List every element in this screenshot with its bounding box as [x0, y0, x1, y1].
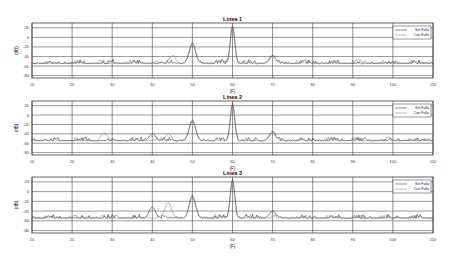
subplot-linea-2: Linea 2 (dB) (F) 200-20-40-60-8010203040…: [14, 94, 437, 171]
svg-text:10: 10: [30, 82, 35, 87]
svg-text:90: 90: [351, 237, 356, 242]
svg-text:100: 100: [390, 237, 397, 242]
x-axis-label: (F): [230, 244, 236, 249]
svg-text:20: 20: [70, 159, 75, 164]
legend: Sin Falla Con Falla: [393, 26, 431, 39]
svg-text:-80: -80: [23, 73, 30, 78]
grid-lines: [32, 23, 433, 78]
y-axis-label: (dB): [14, 46, 19, 55]
svg-text:80: 80: [310, 237, 315, 242]
svg-text:0: 0: [27, 189, 30, 194]
svg-text:-80: -80: [23, 150, 30, 155]
legend-label-sin-falla: Sin Falla: [415, 106, 429, 110]
svg-text:-80: -80: [23, 228, 30, 233]
svg-text:80: 80: [310, 82, 315, 87]
svg-text:20: 20: [25, 179, 30, 184]
svg-text:60: 60: [230, 82, 235, 87]
svg-text:50: 50: [190, 237, 195, 242]
svg-text:60: 60: [230, 159, 235, 164]
svg-text:40: 40: [150, 82, 155, 87]
y-axis-label: (dB): [14, 200, 19, 209]
legend-label-con-falla: Con Falla: [414, 187, 429, 191]
subplot-title: Linea 2: [223, 94, 242, 100]
axis-ticks: 200-20-40-60-80102030405060708090100110: [23, 179, 437, 242]
svg-text:0: 0: [27, 113, 30, 118]
svg-text:100: 100: [390, 82, 397, 87]
svg-text:70: 70: [270, 159, 275, 164]
grid-lines: [32, 101, 433, 155]
svg-text:-60: -60: [23, 218, 30, 223]
svg-text:30: 30: [110, 159, 115, 164]
legend: Sin Falla Con Falla: [393, 104, 431, 117]
svg-text:110: 110: [430, 237, 437, 242]
svg-text:60: 60: [230, 237, 235, 242]
y-axis-label: (dB): [14, 123, 19, 132]
svg-text:90: 90: [351, 82, 356, 87]
svg-text:10: 10: [30, 237, 35, 242]
svg-text:80: 80: [310, 159, 315, 164]
svg-text:110: 110: [430, 82, 437, 87]
legend-label-con-falla: Con Falla: [414, 111, 429, 115]
legend-label-sin-falla: Sin Falla: [415, 182, 429, 186]
svg-text:50: 50: [190, 82, 195, 87]
svg-text:50: 50: [190, 159, 195, 164]
svg-text:-20: -20: [23, 199, 30, 204]
svg-text:100: 100: [390, 159, 397, 164]
svg-text:110: 110: [430, 159, 437, 164]
svg-text:20: 20: [70, 237, 75, 242]
svg-text:90: 90: [351, 159, 356, 164]
subplot-linea-3: Linea 3 (dB) (F) 200-20-40-60-8010203040…: [14, 170, 437, 249]
svg-text:70: 70: [270, 237, 275, 242]
svg-text:-60: -60: [23, 64, 30, 69]
legend: Sin Falla Con Falla: [393, 180, 431, 193]
svg-text:-60: -60: [23, 141, 30, 146]
svg-text:30: 30: [110, 82, 115, 87]
svg-text:-20: -20: [23, 122, 30, 127]
svg-text:40: 40: [150, 237, 155, 242]
svg-text:20: 20: [25, 103, 30, 108]
svg-text:20: 20: [70, 82, 75, 87]
svg-text:0: 0: [27, 35, 30, 40]
legend-label-sin-falla: Sin Falla: [415, 28, 429, 32]
subplot-linea-1: Linea 1 (dB) (F) 200-20-40-60-8010203040…: [14, 16, 437, 94]
svg-text:-40: -40: [23, 209, 30, 214]
svg-text:30: 30: [110, 237, 115, 242]
svg-text:-40: -40: [23, 54, 30, 59]
figure-canvas: Linea 1 (dB) (F) 200-20-40-60-8010203040…: [0, 0, 452, 258]
subplot-title: Linea 3: [223, 170, 242, 176]
grid-lines: [32, 177, 433, 233]
svg-text:70: 70: [270, 82, 275, 87]
legend-label-con-falla: Con Falla: [414, 33, 429, 37]
svg-text:-20: -20: [23, 44, 30, 49]
svg-text:10: 10: [30, 159, 35, 164]
svg-text:40: 40: [150, 159, 155, 164]
subplot-title: Linea 1: [223, 16, 242, 22]
figure: Linea 1 (dB) (F) 200-20-40-60-8010203040…: [0, 0, 452, 258]
svg-text:-40: -40: [23, 131, 30, 136]
svg-text:20: 20: [25, 25, 30, 30]
